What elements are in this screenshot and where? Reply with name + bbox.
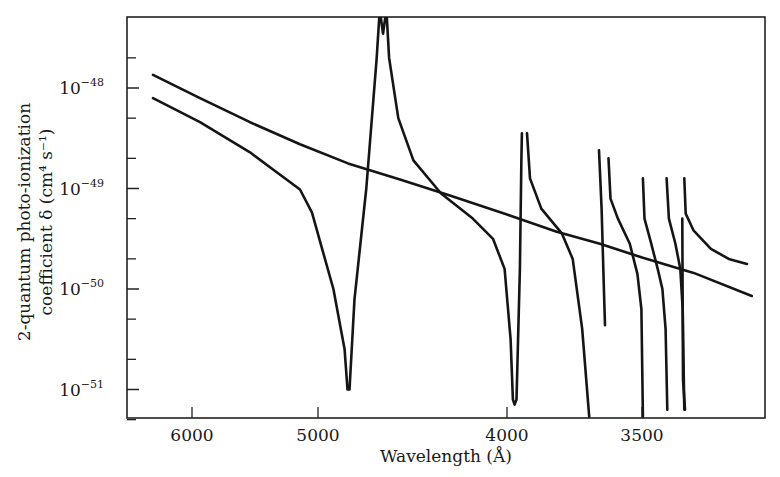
chart: 10−4810−4910−5010−51 6000500040003500 Wa…	[0, 0, 780, 477]
resonant-curve-segment	[153, 17, 522, 405]
x-axis-tick-labels: 6000500040003500	[170, 425, 663, 445]
resonant-curve-segment	[527, 133, 589, 416]
y-tick-label: 10−48	[59, 76, 104, 98]
x-tick-label: 5000	[296, 425, 339, 445]
y-axis-title-line1: 2-quantum photo-ionization	[14, 103, 34, 341]
y-tick-label: 10−51	[59, 378, 104, 400]
y-axis-tick-labels: 10−4810−4910−5010−51	[59, 76, 104, 400]
smooth-curve	[153, 75, 752, 296]
resonant-curve	[153, 17, 747, 417]
x-axis-ticks	[192, 407, 642, 418]
x-tick-label: 3500	[620, 425, 663, 445]
y-tick-label: 10−50	[59, 277, 104, 299]
x-tick-label: 6000	[170, 425, 213, 445]
y-axis-title-line2: coefficient δ (cm⁴ s⁻¹)	[36, 129, 56, 316]
y-tick-label: 10−49	[59, 177, 104, 199]
y-axis-ticks	[127, 58, 139, 420]
resonant-curve-segment	[599, 150, 605, 325]
resonant-curve-segment	[609, 158, 643, 416]
resonant-curve-segment	[643, 178, 667, 409]
resonant-curve-segment	[684, 178, 747, 264]
x-tick-label: 4000	[485, 425, 528, 445]
x-axis-title: Wavelength (Å)	[380, 446, 512, 466]
